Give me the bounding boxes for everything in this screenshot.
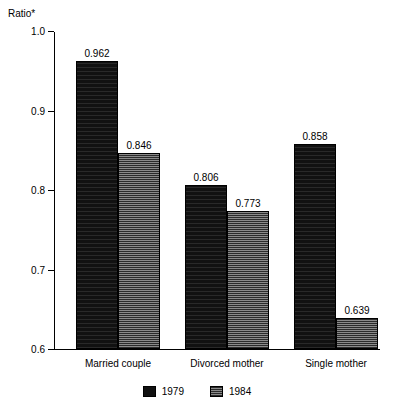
bar-1979-married-couple: 0.962 (76, 61, 118, 349)
legend-label-1984: 1984 (229, 386, 251, 397)
bar-value-1984-divorced-mother: 0.773 (235, 198, 260, 209)
legend-swatch-1979 (143, 386, 156, 397)
y-tick-3: 0.9 (54, 111, 55, 112)
bar-1979-divorced-mother: 0.806 (185, 185, 227, 349)
bar-1984-divorced-mother: 0.773 (227, 211, 269, 349)
legend-swatch-1984 (210, 386, 223, 397)
y-tick-2: 0.8 (54, 190, 55, 191)
bar-chart: Ratio* 0.6 0.7 0.8 0.9 1.0 0.962 (0, 0, 394, 405)
y-tick-0: 0.6 (54, 349, 55, 350)
legend-label-1979: 1979 (162, 386, 184, 397)
bar-value-1979-divorced-mother: 0.806 (193, 172, 218, 183)
bar-value-1984-married-couple: 0.846 (126, 140, 151, 151)
y-tick-1: 0.7 (54, 270, 55, 271)
y-tick-label-3: 0.9 (31, 105, 45, 116)
y-tick-label-4: 1.0 (31, 26, 45, 37)
bar-value-1979-married-couple: 0.962 (84, 48, 109, 59)
y-tick-label-0: 0.6 (31, 344, 45, 355)
y-tick-label-1: 0.7 (31, 264, 45, 275)
y-axis-line (54, 32, 55, 350)
legend-item-1979: 1979 (143, 386, 184, 397)
bar-value-1984-single-mother: 0.639 (344, 305, 369, 316)
bar-1984-single-mother: 0.639 (336, 318, 378, 349)
x-category-label-divorced-mother: Divorced mother (190, 358, 263, 369)
x-category-label-single-mother: Single mother (305, 358, 367, 369)
bar-value-1979-single-mother: 0.858 (302, 131, 327, 142)
legend-item-1984: 1984 (210, 386, 251, 397)
y-axis-title: Ratio* (8, 8, 35, 19)
y-tick-4: 1.0 (54, 31, 55, 32)
y-tick-label-2: 0.8 (31, 185, 45, 196)
bar-1979-single-mother: 0.858 (294, 144, 336, 349)
chart-legend: 1979 1984 (0, 386, 394, 397)
plot-area: 0.6 0.7 0.8 0.9 1.0 0.962 0.846 Married … (54, 32, 380, 350)
x-axis-line (54, 349, 380, 350)
x-category-label-married-couple: Married couple (85, 358, 151, 369)
bar-1984-married-couple: 0.846 (118, 153, 160, 349)
